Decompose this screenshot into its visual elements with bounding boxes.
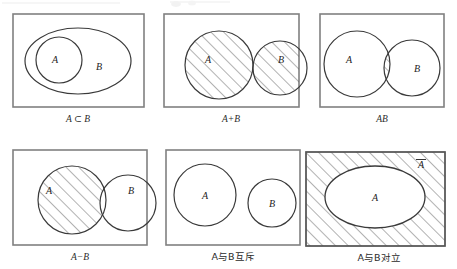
panel-complement: A A A与B对立	[306, 152, 445, 263]
panel-difference-caption: A−B	[70, 252, 89, 262]
panel-intersection-label-b: B	[414, 63, 420, 74]
panel-subset-label-b: B	[96, 61, 102, 72]
panel-mutually-exclusive-label-b: B	[269, 198, 275, 209]
panel-difference-label-b: B	[128, 185, 134, 196]
panel-intersection-label-a: A	[345, 54, 353, 65]
venn-diagram-figure: A B A ⊂ B A B A+B A B AB	[0, 0, 457, 269]
panel-difference-label-a: A	[45, 185, 53, 196]
panel-complement-label-a: A	[371, 192, 379, 203]
panel-mutually-exclusive-universe-box	[166, 150, 300, 245]
panel-intersection-caption: AB	[375, 114, 388, 124]
panel-complement-label-a-complement-text: A	[417, 159, 425, 170]
panel-subset: A B A ⊂ B	[13, 14, 144, 124]
panel-union-label-a: A	[204, 54, 212, 65]
panel-mutually-exclusive: A B A与B互斥	[166, 150, 300, 262]
panel-union-caption: A+B	[221, 114, 240, 124]
panel-union-label-b: B	[278, 54, 284, 65]
panel-subset-label-a: A	[51, 54, 59, 65]
panel-difference: A B A−B	[13, 150, 156, 262]
panel-complement-caption: A与B对立	[357, 252, 400, 263]
panel-union: A B A+B	[164, 14, 307, 124]
panel-intersection: A B AB	[320, 14, 444, 124]
panel-subset-caption: A ⊂ B	[65, 114, 90, 124]
panel-mutually-exclusive-label-a: A	[201, 190, 209, 201]
panel-mutually-exclusive-caption: A与B互斥	[211, 251, 254, 262]
